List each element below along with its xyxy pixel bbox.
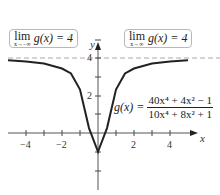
function-label: g(x) = 40x⁴ + 4x² − 1 10x⁴ + 8x² + 1 (114, 94, 213, 121)
y-tick-2: 2 (87, 90, 92, 101)
left-limit-box: limx→−∞ g(x) = 4 (9, 29, 78, 48)
function-fraction: 40x⁴ + 4x² − 1 10x⁴ + 8x² + 1 (147, 94, 213, 121)
lim-subscript: x→∞ (129, 41, 145, 47)
function-lhs: g(x) = (114, 100, 144, 114)
limit-expression: g(x) = 4 (34, 31, 73, 45)
right-limit-box: limx→∞ g(x) = 4 (124, 29, 192, 48)
x-axis-label: x (200, 132, 205, 144)
limit-expression: g(x) = 4 (148, 31, 187, 45)
y-tick-4: 4 (87, 52, 92, 63)
lim-subscript: x→−∞ (14, 41, 31, 47)
x-tick-m2: −2 (56, 139, 67, 150)
x-tick-2: 2 (131, 139, 136, 150)
function-denominator: 10x⁴ + 8x² + 1 (147, 108, 213, 121)
x-tick-m4: −4 (20, 139, 31, 150)
x-tick-4: 4 (167, 139, 172, 150)
y-axis-label: y (90, 38, 95, 50)
y-axis-arrow-icon (95, 42, 101, 50)
function-numerator: 40x⁴ + 4x² − 1 (147, 94, 213, 108)
x-axis-arrow-icon (190, 130, 198, 136)
